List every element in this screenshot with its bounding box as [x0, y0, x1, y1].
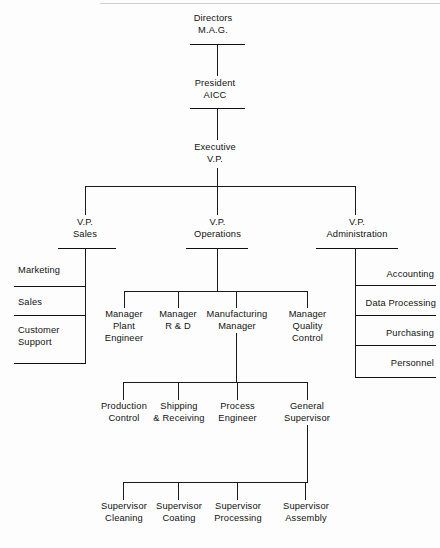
node-sales-unit-label: Sales: [18, 296, 88, 308]
connector-to-manager-plant-engineer: [124, 291, 125, 308]
node-executive-vp-line1: Executive: [180, 141, 250, 153]
node-manager-rd[interactable]: Manager R & D: [150, 308, 206, 332]
node-customer-support-rule: [14, 363, 86, 364]
node-shipping-receiving[interactable]: Shipping & Receiving: [148, 400, 210, 424]
connector-executive-vp-down: [217, 168, 218, 187]
node-vp-administration-line1: V.P.: [313, 216, 401, 228]
node-process-engineer-line1: Process: [209, 400, 266, 412]
connector-to-process-engineer: [237, 382, 238, 400]
node-vp-sales[interactable]: V.P. Sales: [55, 216, 115, 240]
node-vp-administration-line2: Administration: [313, 228, 401, 240]
node-process-engineer-line2: Engineer: [209, 412, 266, 424]
node-manufacturing-manager-line2: Manager: [203, 320, 271, 332]
node-general-supervisor[interactable]: General Supervisor: [276, 400, 338, 424]
node-vp-operations-line1: V.P.: [180, 216, 255, 228]
node-sales-unit-rule: [14, 315, 86, 316]
node-supervisor-coating-line2: Coating: [149, 512, 209, 524]
node-manager-rd-line1: Manager: [150, 308, 206, 320]
connector-operations-down: [217, 248, 218, 291]
node-customer-support-line1: Customer: [18, 324, 88, 336]
node-purchasing[interactable]: Purchasing: [356, 327, 434, 339]
connector-directors-to-president: [217, 44, 218, 76]
connector-to-supervisor-processing: [237, 482, 238, 500]
node-personnel[interactable]: Personnel: [356, 357, 434, 369]
connector-to-vp-operations: [217, 186, 218, 215]
connector-to-manufacturing-manager: [236, 291, 237, 308]
connector-to-general-supervisor: [307, 382, 308, 400]
node-manager-quality-control-line1: Manager: [279, 308, 336, 320]
page-edge-artifact: [100, 3, 440, 4]
node-executive-vp-line2: V.P.: [180, 153, 250, 165]
node-personnel-rule: [355, 377, 436, 378]
connector-to-manager-quality-control: [307, 291, 308, 308]
node-shipping-receiving-line2: & Receiving: [148, 412, 210, 424]
node-personnel-label: Personnel: [356, 357, 434, 369]
node-sales-unit[interactable]: Sales: [18, 296, 88, 308]
node-marketing[interactable]: Marketing: [18, 264, 88, 276]
node-supervisor-assembly-line2: Assembly: [275, 512, 337, 524]
branch-bar-operations-managers: [124, 291, 308, 292]
node-vp-sales-line1: V.P.: [55, 216, 115, 228]
node-supervisor-assembly-line1: Supervisor: [275, 500, 337, 512]
node-manufacturing-manager-line1: Manufacturing: [203, 308, 271, 320]
node-manager-rd-line2: R & D: [150, 320, 206, 332]
node-purchasing-label: Purchasing: [356, 327, 434, 339]
node-shipping-receiving-line1: Shipping: [148, 400, 210, 412]
branch-bar-vp-level: [85, 186, 356, 187]
node-executive-vp[interactable]: Executive V.P.: [180, 141, 250, 165]
node-manager-plant-engineer[interactable]: Manager Plant Engineer: [95, 308, 153, 345]
node-supervisor-assembly[interactable]: Supervisor Assembly: [275, 500, 337, 524]
node-data-processing-rule: [355, 315, 436, 316]
node-supervisor-cleaning-line1: Supervisor: [94, 500, 154, 512]
connector-to-production-control: [123, 382, 124, 400]
node-manager-quality-control[interactable]: Manager Quality Control: [279, 308, 336, 345]
connector-manufacturing-manager-down: [236, 333, 237, 382]
connector-general-supervisor-down: [307, 425, 308, 482]
connector-president-to-executive-vp: [217, 108, 218, 140]
connector-to-vp-sales: [85, 186, 86, 215]
node-data-processing-label: Data Processing: [350, 297, 436, 309]
connector-to-supervisor-cleaning: [123, 482, 124, 500]
node-supervisor-cleaning[interactable]: Supervisor Cleaning: [94, 500, 154, 524]
node-general-supervisor-line2: Supervisor: [276, 412, 338, 424]
node-manager-quality-control-line2: Quality: [279, 320, 336, 332]
connector-to-manager-rd: [178, 291, 179, 308]
node-supervisor-coating-line1: Supervisor: [149, 500, 209, 512]
node-vp-administration[interactable]: V.P. Administration: [313, 216, 401, 240]
node-production-control-line1: Production: [94, 400, 154, 412]
node-accounting-rule: [355, 285, 436, 286]
node-manager-plant-engineer-line1: Manager: [95, 308, 153, 320]
branch-bar-supervisors: [123, 482, 308, 483]
node-marketing-rule: [14, 286, 86, 287]
node-president[interactable]: President AICC: [180, 77, 250, 101]
node-vp-operations[interactable]: V.P. Operations: [180, 216, 255, 240]
node-purchasing-rule: [355, 345, 436, 346]
node-customer-support-line2: Support: [18, 336, 88, 348]
node-marketing-label: Marketing: [18, 264, 88, 276]
node-supervisor-cleaning-line2: Cleaning: [94, 512, 154, 524]
node-manager-plant-engineer-line2: Plant: [95, 320, 153, 332]
node-production-control[interactable]: Production Control: [94, 400, 154, 424]
node-president-line1: President: [180, 77, 250, 89]
org-chart: Directors M.A.G. President AICC Executiv…: [0, 0, 440, 548]
node-data-processing[interactable]: Data Processing: [350, 297, 436, 309]
node-supervisor-coating[interactable]: Supervisor Coating: [149, 500, 209, 524]
node-process-engineer[interactable]: Process Engineer: [209, 400, 266, 424]
node-production-control-line2: Control: [94, 412, 154, 424]
node-vp-administration-rule: [316, 248, 398, 249]
node-directors[interactable]: Directors M.A.G.: [178, 12, 248, 36]
branch-bar-manufacturing-reports: [123, 382, 308, 383]
connector-to-shipping-receiving: [178, 382, 179, 400]
node-supervisor-processing[interactable]: Supervisor Processing: [206, 500, 270, 524]
connector-to-supervisor-assembly: [305, 482, 306, 500]
node-customer-support[interactable]: Customer Support: [18, 324, 88, 348]
node-manager-quality-control-line3: Control: [279, 332, 336, 344]
node-vp-sales-rule: [58, 248, 116, 249]
node-accounting[interactable]: Accounting: [356, 268, 434, 280]
node-accounting-label: Accounting: [356, 268, 434, 280]
connector-to-supervisor-coating: [178, 482, 179, 500]
node-manager-plant-engineer-line3: Engineer: [95, 332, 153, 344]
node-manufacturing-manager[interactable]: Manufacturing Manager: [203, 308, 271, 332]
node-vp-sales-line2: Sales: [55, 228, 115, 240]
node-directors-line2: M.A.G.: [178, 24, 248, 36]
